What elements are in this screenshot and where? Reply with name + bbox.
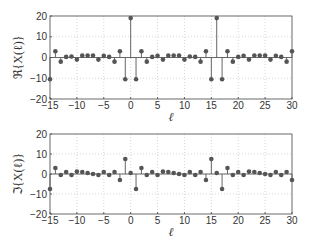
x-tick-label: 10 xyxy=(179,100,191,111)
stem-marker xyxy=(198,59,203,64)
stem-marker xyxy=(274,54,279,59)
stem-marker xyxy=(101,54,106,59)
stem-marker xyxy=(150,55,155,60)
x-tick-label: 30 xyxy=(286,100,298,111)
x-tick-label: 5 xyxy=(155,100,161,111)
x-tick-label: −10 xyxy=(68,215,85,226)
stem-marker xyxy=(257,53,262,58)
stem-marker xyxy=(91,172,96,177)
stem-marker xyxy=(64,55,69,60)
x-tick-label: 0 xyxy=(128,215,134,226)
stem-marker xyxy=(139,166,144,171)
stem-marker xyxy=(279,55,284,60)
stem-marker xyxy=(85,53,90,58)
stem-marker xyxy=(96,57,101,62)
stem-marker xyxy=(241,173,246,178)
stem-marker xyxy=(252,170,257,175)
stem-marker xyxy=(231,173,236,178)
stem-marker xyxy=(69,54,74,59)
stem-marker xyxy=(214,171,219,176)
x-tick-label: 25 xyxy=(260,215,272,226)
x-axis-label: ℓ xyxy=(169,225,174,239)
stem-marker xyxy=(204,49,209,54)
stem-marker xyxy=(150,170,155,175)
stem-marker xyxy=(161,57,166,62)
y-tick-label: −20 xyxy=(30,209,47,220)
x-tick-label: 0 xyxy=(128,100,134,111)
stem-marker xyxy=(53,49,58,54)
stem-marker xyxy=(166,170,171,175)
stem-marker xyxy=(171,53,176,58)
x-tick-label: −5 xyxy=(98,100,110,111)
stem-marker xyxy=(263,53,268,58)
stem-marker xyxy=(48,187,53,192)
y-tick-label: 0 xyxy=(41,52,47,63)
y-tick-label: −10 xyxy=(30,73,47,84)
real-part-stem-plot: −15−10−5051015202530−20−1001020ℜ{X(ℓ)}ℓ xyxy=(11,11,298,125)
stem-marker xyxy=(284,59,289,64)
x-tick-label: 30 xyxy=(286,215,298,226)
y-tick-label: 10 xyxy=(36,149,48,160)
stem-marker xyxy=(193,55,198,60)
stem-marker xyxy=(268,173,273,178)
stem-marker xyxy=(177,53,182,58)
stem-marker xyxy=(139,49,144,54)
stem-marker xyxy=(236,170,241,175)
stem-marker xyxy=(193,173,198,178)
stem-marker xyxy=(64,170,69,175)
stem-marker xyxy=(128,16,133,21)
stem-plots: −15−10−5051015202530−20−1001020ℜ{X(ℓ)}ℓ … xyxy=(0,0,311,244)
stem-marker xyxy=(118,178,123,183)
stem-marker xyxy=(225,49,230,54)
stem-marker xyxy=(134,187,139,192)
stem-marker xyxy=(75,169,80,174)
stem-marker xyxy=(236,55,241,60)
stem-marker xyxy=(209,157,214,162)
stem-marker xyxy=(107,173,112,178)
stem-marker xyxy=(274,170,279,175)
stem-marker xyxy=(231,59,236,64)
stem-marker xyxy=(145,173,150,178)
x-tick-label: −10 xyxy=(68,100,85,111)
stem-marker xyxy=(75,57,80,62)
stem-marker xyxy=(247,169,252,174)
stem-marker xyxy=(290,49,295,54)
stem-marker xyxy=(225,166,230,171)
stem-marker xyxy=(182,173,187,178)
x-axis-label: ℓ xyxy=(169,110,174,124)
stem-marker xyxy=(85,171,90,176)
stem-marker xyxy=(263,172,268,177)
y-tick-label: 20 xyxy=(36,11,48,22)
stem-marker xyxy=(69,173,74,178)
stem-marker xyxy=(209,77,214,82)
stem-marker xyxy=(177,172,182,177)
y-tick-label: 0 xyxy=(41,169,47,180)
stem-marker xyxy=(241,54,246,59)
stem-marker xyxy=(155,173,160,178)
x-tick-label: −5 xyxy=(98,215,110,226)
y-tick-label: 10 xyxy=(36,31,48,42)
y-tick-label: −10 xyxy=(30,189,47,200)
stem-marker xyxy=(91,53,96,58)
stem-marker xyxy=(145,59,150,64)
stem-marker xyxy=(118,49,123,54)
stem-marker xyxy=(112,170,117,175)
x-tick-label: 5 xyxy=(155,215,161,226)
y-tick-label: 20 xyxy=(36,129,48,140)
stem-marker xyxy=(48,77,53,82)
stem-marker xyxy=(161,169,166,174)
stem-marker xyxy=(204,178,209,183)
stem-marker xyxy=(290,178,295,183)
stem-marker xyxy=(58,173,63,178)
stem-marker xyxy=(171,171,176,176)
x-tick-label: 15 xyxy=(206,100,218,111)
x-tick-label: 25 xyxy=(260,100,272,111)
x-tick-label: 15 xyxy=(206,215,218,226)
stem-marker xyxy=(53,166,58,171)
stem-marker xyxy=(214,16,219,21)
stem-marker xyxy=(123,157,128,162)
stem-marker xyxy=(107,55,112,60)
stem-marker xyxy=(58,59,63,64)
stem-marker xyxy=(284,170,289,175)
stem-marker xyxy=(252,53,257,58)
